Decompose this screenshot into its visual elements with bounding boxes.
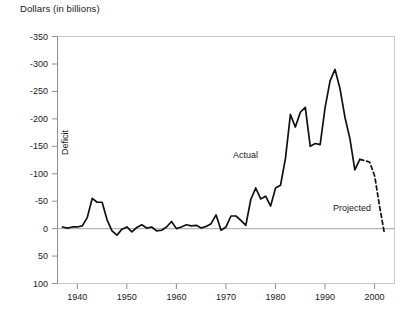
y-tick-label: -200 xyxy=(30,114,48,124)
series-line-projected xyxy=(360,159,385,234)
x-axis-ticks xyxy=(77,284,374,290)
series-line-actual xyxy=(62,69,359,235)
deficit-chart: Dollars (in billions) -350 -300 -250 -20… xyxy=(0,0,416,315)
y-tick-label: -300 xyxy=(30,59,48,69)
annotation-actual: Actual xyxy=(233,150,258,160)
annotation-projected: Projected xyxy=(333,203,371,213)
annotation-deficit: Deficit xyxy=(60,129,70,155)
x-tick-label: 1980 xyxy=(265,292,285,302)
y-tick-label: 50 xyxy=(38,251,48,261)
x-tick-label: 1970 xyxy=(216,292,236,302)
y-tick-label: 0 xyxy=(43,224,48,234)
y-tick-label: -150 xyxy=(30,141,48,151)
plot-frame xyxy=(58,37,395,284)
y-tick-label: 100 xyxy=(33,279,48,289)
x-tick-label: 1940 xyxy=(67,292,87,302)
y-tick-label: -350 xyxy=(30,32,48,42)
x-tick-label: 1990 xyxy=(315,292,335,302)
x-tick-label: 1960 xyxy=(166,292,186,302)
x-tick-label: 1950 xyxy=(117,292,137,302)
x-tick-label: 2000 xyxy=(365,292,385,302)
y-tick-label: -250 xyxy=(30,86,48,96)
y-tick-label: -50 xyxy=(35,196,48,206)
y-tick-label: -100 xyxy=(30,169,48,179)
chart-plot-area: -350 -300 -250 -200 -150 -100 -50 0 50 1… xyxy=(0,0,416,315)
y-axis-ticks xyxy=(52,37,58,284)
